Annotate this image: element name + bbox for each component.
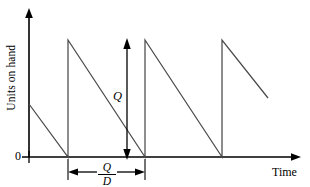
- origin-label: 0: [15, 150, 21, 162]
- cycle-dimension-arrowhead-left: [68, 168, 78, 175]
- inventory-sawtooth-figure: Units on hand 0 Time Q Q D: [0, 0, 310, 187]
- q-dimension-arrowhead-bottom: [123, 149, 130, 160]
- order-quantity-label: Q: [113, 90, 122, 103]
- cycle-time-numerator: Q: [98, 161, 116, 173]
- inventory-level-curve: [29, 40, 268, 157]
- q-dimension-arrowhead-top: [123, 38, 130, 49]
- y-axis-label: Units on hand: [6, 40, 18, 116]
- cycle-dimension-arrowhead-right: [135, 168, 145, 175]
- x-axis-label: Time: [272, 166, 297, 178]
- sawtooth-chart-svg: [0, 0, 310, 187]
- cycle-time-fraction-label: Q D: [98, 161, 116, 187]
- y-axis-arrowhead: [25, 8, 33, 18]
- cycle-time-denominator: D: [98, 175, 116, 187]
- x-axis-arrowhead: [291, 153, 301, 161]
